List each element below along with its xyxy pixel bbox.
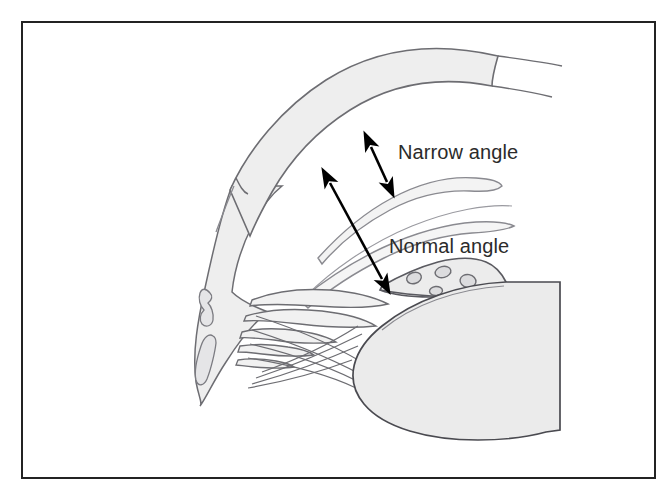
normal-angle-label: Normal angle xyxy=(389,235,509,257)
eye-angle-illustration: Narrow angle Normal angle xyxy=(0,0,672,496)
narrow-angle-label: Narrow angle xyxy=(398,141,518,163)
diagram-figure: Narrow angle Normal angle xyxy=(0,0,672,496)
